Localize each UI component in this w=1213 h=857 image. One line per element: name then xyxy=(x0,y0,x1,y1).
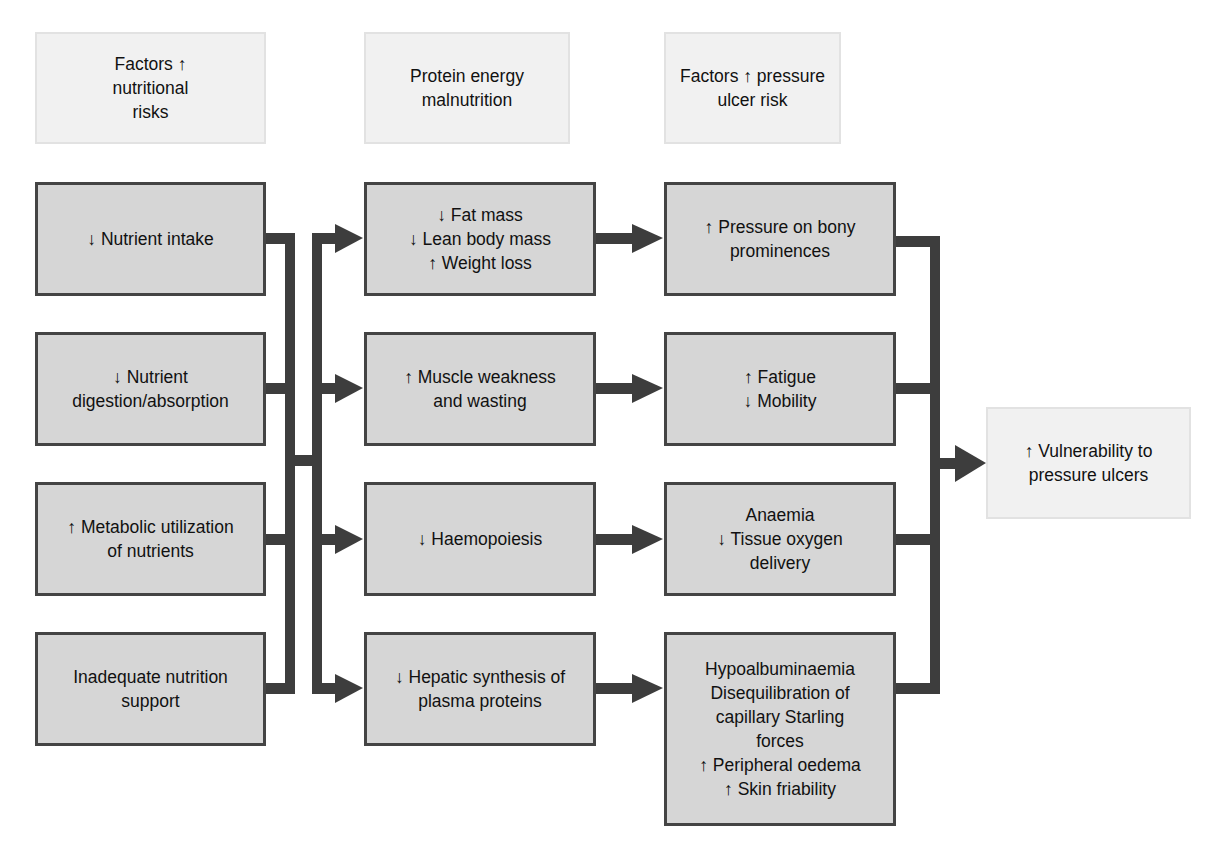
node-hepatic-synthesis: ↓ Hepatic synthesis of plasma proteins xyxy=(364,632,596,746)
node-pressure-bony-prominences: ↑ Pressure on bony prominences xyxy=(664,182,896,296)
node-muscle-weakness: ↑ Muscle weakness and wasting xyxy=(364,332,596,446)
node-label: ↓ Fat mass ↓ Lean body mass ↑ Weight los… xyxy=(409,203,551,275)
arrow-head-c2-3 xyxy=(335,525,363,554)
arrow-head-c3-2 xyxy=(632,374,663,403)
distributor-bar xyxy=(312,233,322,694)
node-vulnerability-outcome: ↑ Vulnerability to pressure ulcers xyxy=(986,407,1191,519)
arrow-head-c2-2 xyxy=(335,374,363,403)
header-pressure-ulcer-risk: Factors ↑ pressure ulcer risk xyxy=(664,32,841,144)
outcome-label: ↑ Vulnerability to pressure ulcers xyxy=(1025,439,1153,487)
arrow-head-outcome xyxy=(955,445,986,482)
node-nutrient-intake: ↓ Nutrient intake xyxy=(35,182,266,296)
arrow-head-c3-1 xyxy=(632,224,663,253)
node-label: ↑ Fatigue ↓ Mobility xyxy=(744,365,817,413)
node-metabolic-utilization: ↑ Metabolic utilization of nutrients xyxy=(35,482,266,596)
node-haemopoiesis: ↓ Haemopoiesis xyxy=(364,482,596,596)
node-label: ↑ Pressure on bony prominences xyxy=(705,215,856,263)
arrow-head-c3-4 xyxy=(632,674,663,703)
header-protein-energy-malnutrition: Protein energy malnutrition xyxy=(364,32,570,144)
node-label: Inadequate nutrition support xyxy=(73,665,228,713)
node-fatigue-mobility: ↑ Fatigue ↓ Mobility xyxy=(664,332,896,446)
node-label: Hypoalbuminaemia Disequilibration of cap… xyxy=(699,657,860,801)
header-label: Factors ↑ pressure ulcer risk xyxy=(680,64,825,112)
node-body-mass: ↓ Fat mass ↓ Lean body mass ↑ Weight los… xyxy=(364,182,596,296)
node-label: ↓ Nutrient digestion/absorption xyxy=(72,365,229,413)
arrow-head-c2-4 xyxy=(335,674,363,703)
node-label: ↓ Nutrient intake xyxy=(87,227,213,251)
header-label: Factors ↑ nutritional risks xyxy=(113,52,189,124)
node-label: ↓ Hepatic synthesis of plasma proteins xyxy=(395,665,565,713)
node-hypoalbuminaemia: Hypoalbuminaemia Disequilibration of cap… xyxy=(664,632,896,826)
node-label: ↑ Muscle weakness and wasting xyxy=(404,365,556,413)
arrow-head-c2-1 xyxy=(335,224,363,253)
node-inadequate-nutrition-support: Inadequate nutrition support xyxy=(35,632,266,746)
node-label: ↓ Haemopoiesis xyxy=(418,527,543,551)
node-label: ↑ Metabolic utilization of nutrients xyxy=(67,515,233,563)
header-nutritional-risks: Factors ↑ nutritional risks xyxy=(35,32,266,144)
node-anaemia: Anaemia ↓ Tissue oxygen delivery xyxy=(664,482,896,596)
node-label: Anaemia ↓ Tissue oxygen delivery xyxy=(717,503,842,575)
node-nutrient-digestion: ↓ Nutrient digestion/absorption xyxy=(35,332,266,446)
arrow-head-c3-3 xyxy=(632,525,663,554)
header-label: Protein energy malnutrition xyxy=(410,64,524,112)
